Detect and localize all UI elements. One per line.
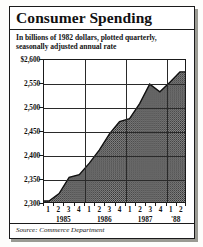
y-axis-label: $2,600 xyxy=(21,55,40,64)
source-note: Source: Commerce Department xyxy=(16,226,105,234)
frame-shadow-right xyxy=(195,9,198,242)
gridline xyxy=(44,108,185,109)
x-axis-quarter-label: 2 xyxy=(179,206,183,214)
chart-subtitle-line-1: In billions of 1982 dollars, plotted qua… xyxy=(16,33,192,42)
source-divider xyxy=(10,223,194,224)
x-axis-tick xyxy=(145,203,146,206)
x-axis-quarter-label: 4 xyxy=(159,206,163,214)
x-axis-tick xyxy=(84,203,85,206)
x-axis-tick xyxy=(166,203,167,206)
x-axis-tick xyxy=(176,203,177,206)
x-axis-quarter-label: 1 xyxy=(46,206,50,214)
x-axis-quarter-label: 1 xyxy=(87,206,91,214)
x-axis-quarter-label: 2 xyxy=(97,206,101,214)
x-axis-quarter-label: 3 xyxy=(148,206,152,214)
page-title: Consumer Spending xyxy=(16,9,188,26)
year-separator xyxy=(167,60,168,202)
x-axis-tick xyxy=(125,203,126,206)
y-axis-label: 2,450 xyxy=(24,127,40,136)
y-axis-label: 2,400 xyxy=(24,151,40,160)
gridline xyxy=(44,132,185,133)
gridline xyxy=(44,156,185,157)
x-axis-quarter-label: 2 xyxy=(138,206,142,214)
x-axis-tick xyxy=(94,203,95,206)
x-axis-quarter-label: 2 xyxy=(57,206,61,214)
x-axis-tick xyxy=(155,203,156,206)
year-separator xyxy=(85,60,86,202)
x-axis-tick xyxy=(135,203,136,206)
gridline xyxy=(44,84,185,85)
chart-figure: Consumer Spending In billions of 1982 do… xyxy=(0,0,203,247)
x-axis-quarter-label: 4 xyxy=(118,206,122,214)
y-axis: $2,6002,5502,5002,4502,4002,3502,300 xyxy=(13,52,42,210)
gridline xyxy=(44,180,185,181)
chart-subtitle: In billions of 1982 dollars, plotted qua… xyxy=(16,33,192,51)
title-divider xyxy=(10,29,194,30)
chart-area: $2,6002,5502,5002,4502,4002,3502,300 123… xyxy=(13,52,193,210)
x-axis-quarter-label: 3 xyxy=(108,206,112,214)
y-axis-label: 2,500 xyxy=(24,103,40,112)
x-axis-quarter-label: 1 xyxy=(128,206,132,214)
x-axis-tick xyxy=(43,203,44,206)
x-axis-tick xyxy=(104,203,105,206)
year-separator xyxy=(126,60,127,202)
frame-shadow-bottom xyxy=(11,239,198,242)
x-axis-quarter-label: 4 xyxy=(77,206,81,214)
y-axis-label: 2,550 xyxy=(24,79,40,88)
x-axis-tick xyxy=(74,203,75,206)
chart-subtitle-line-2: seasonally adjusted annual rate xyxy=(16,42,192,51)
plot-area xyxy=(43,59,186,203)
y-axis-label: 2,350 xyxy=(24,175,40,184)
y-axis-label: 2,300 xyxy=(24,199,40,208)
x-axis-quarter-label: 3 xyxy=(67,206,71,214)
x-axis-tick xyxy=(185,203,186,206)
x-axis-tick xyxy=(115,203,116,206)
x-axis-tick xyxy=(53,203,54,206)
x-axis-tick xyxy=(63,203,64,206)
x-axis-quarter-label: 1 xyxy=(169,206,173,214)
